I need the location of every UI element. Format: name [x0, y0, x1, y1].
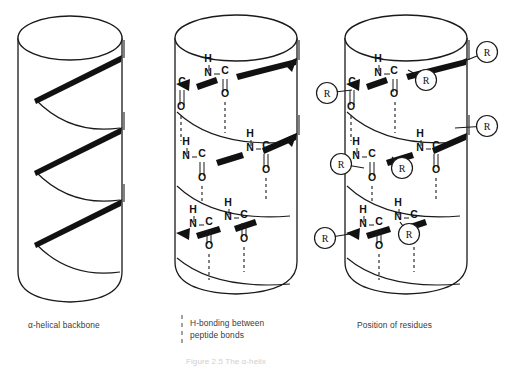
atom-label-n: N	[374, 66, 382, 78]
panel-caption-backbone: α-helical backbone	[28, 320, 100, 332]
atom-label-c: C	[375, 215, 383, 227]
atom-label-o: O	[240, 232, 248, 244]
atom-label-h: H	[246, 127, 254, 139]
cylinder-top-ellipse	[345, 15, 467, 61]
atom-label-h: H	[204, 52, 212, 64]
atom-label-h: H	[182, 135, 190, 147]
atom-label-h: H	[189, 203, 197, 215]
residue-label: R	[399, 163, 406, 174]
atom-label-o: O	[198, 171, 206, 183]
atom-label-h: H	[394, 196, 402, 208]
atom-label-n: N	[204, 66, 212, 78]
atom-label-n: N	[352, 149, 360, 161]
atom-label-c: C	[368, 147, 376, 159]
atom-label-c: C	[198, 147, 206, 159]
atom-label-o: O	[432, 163, 440, 175]
atom-label-o: O	[177, 100, 185, 112]
atom-label-h: H	[359, 203, 367, 215]
panel-caption-hbonding: H-bonding between peptide bonds	[190, 318, 264, 341]
atom-label-c: C	[221, 64, 229, 76]
atom-label-c: C	[432, 139, 440, 151]
alpha-helix-figure: HNCOCOHNCOHNCOHNCOHNCO HNCOCOHNCOHNCOHNC…	[0, 0, 512, 367]
atom-label-n: N	[224, 210, 232, 222]
panel-alpha-helical-backbone	[18, 16, 124, 302]
atom-label-h: H	[352, 135, 360, 147]
cylinder-body	[18, 38, 122, 302]
cylinder-body	[175, 38, 297, 294]
panel-caption-residues: Position of residues	[357, 320, 432, 332]
residue-label: R	[322, 233, 329, 244]
figure-canvas: HNCOCOHNCOHNCOHNCOHNCO HNCOCOHNCOHNCOHNC…	[0, 0, 512, 367]
residue-label: R	[338, 159, 345, 170]
atom-label-o: O	[390, 87, 398, 99]
residue-label: R	[324, 88, 331, 99]
residue-label: R	[406, 229, 413, 240]
cylinder-top-ellipse	[18, 16, 122, 60]
panel-h-bonding	[175, 15, 299, 294]
atom-label-c: C	[262, 139, 270, 151]
atom-label-n: N	[359, 217, 367, 229]
atom-label-c: C	[390, 64, 398, 76]
atom-label-n: N	[394, 210, 402, 222]
atom-label-c: C	[348, 75, 356, 87]
atom-label-c: C	[205, 215, 213, 227]
atom-label-o: O	[368, 171, 376, 183]
atom-label-n: N	[416, 141, 424, 153]
atom-label-c: C	[240, 208, 248, 220]
panel-position-of-residues	[345, 15, 469, 294]
atom-label-h: H	[224, 196, 232, 208]
residue-label: R	[484, 121, 491, 132]
cylinder-top-ellipse	[175, 15, 297, 61]
atom-label-o: O	[347, 100, 355, 112]
residue-label: R	[484, 47, 491, 58]
atom-label-o: O	[375, 239, 383, 251]
atom-label-o: O	[205, 239, 213, 251]
atom-label-c: C	[178, 75, 186, 87]
atom-label-n: N	[246, 141, 254, 153]
figure-caption: Figure 2.5 The α-helix	[186, 356, 266, 367]
atom-label-n: N	[182, 149, 190, 161]
atom-label-c: C	[410, 208, 418, 220]
atom-label-h: H	[416, 127, 424, 139]
atom-label-o: O	[262, 163, 270, 175]
residue-label: R	[423, 75, 430, 86]
atom-label-o: O	[221, 87, 229, 99]
atom-label-n: N	[189, 217, 197, 229]
atom-label-h: H	[374, 52, 382, 64]
